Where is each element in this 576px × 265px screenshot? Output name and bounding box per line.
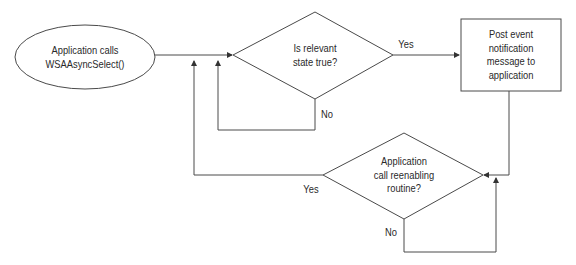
d1-yes-label: Yes	[398, 38, 413, 50]
d2-yes-label: Yes	[303, 183, 318, 195]
decision2-label-line3: routine?	[362, 182, 447, 196]
post-label: Post event notification message to appli…	[469, 28, 554, 82]
decision1-label: Is relevant state true?	[273, 42, 358, 69]
d1-no-label: No	[321, 108, 333, 120]
decision1-label-line1: Is relevant	[273, 42, 358, 56]
edge-post-to-d2	[484, 91, 509, 175]
edge-d2-yes	[194, 61, 323, 175]
post-label-line2: notification	[469, 42, 554, 56]
post-label-line3: message to	[469, 55, 554, 69]
post-label-line4: application	[469, 69, 554, 83]
flowchart-canvas: Application calls WSAAsyncSelect() Is re…	[0, 0, 576, 265]
decision1-label-line2: state true?	[273, 56, 358, 70]
edge-d1-no	[218, 61, 315, 130]
decision2-label-line1: Application	[362, 155, 447, 169]
decision2-label: Application call reenabling routine?	[362, 155, 447, 196]
start-label: Application calls WSAAsyncSelect()	[43, 44, 128, 71]
start-label-line1: Application calls	[43, 44, 128, 58]
post-label-line1: Post event	[469, 28, 554, 42]
d2-no-label: No	[385, 226, 397, 238]
start-label-line2: WSAAsyncSelect()	[43, 58, 128, 72]
decision2-label-line2: call reenabling	[362, 169, 447, 183]
